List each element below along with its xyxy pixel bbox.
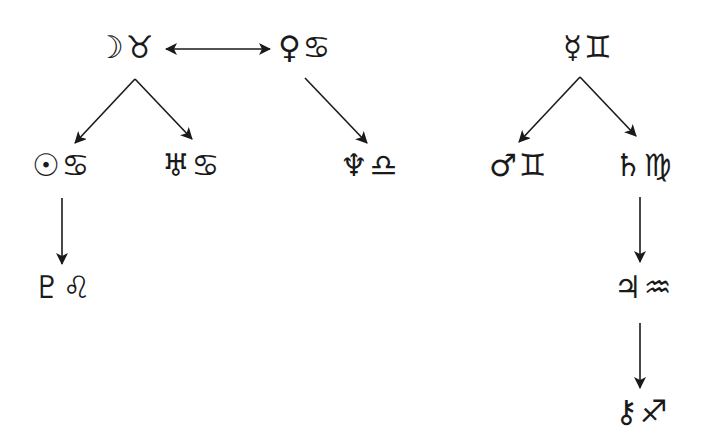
node-mars-gemini: ♂♊	[489, 150, 547, 181]
sagittarius-icon: ♐	[640, 396, 668, 427]
node-sun-cancer: ☉♋	[32, 150, 90, 181]
arrow-mercury-gemini-to-mars-gemini	[519, 77, 580, 142]
node-venus-cancer: ♀♋	[278, 32, 331, 63]
pluto-icon: ♇	[33, 272, 61, 303]
venus-icon: ♀	[278, 32, 301, 63]
gemini-icon: ♊	[584, 32, 612, 63]
node-mercury-gemini: ☿♊	[563, 32, 612, 63]
leo-icon: ♌	[63, 272, 91, 303]
cancer-icon: ♋	[303, 32, 331, 63]
node-neptune-libra: ♆♎	[340, 150, 398, 181]
mercury-icon: ☿	[563, 32, 582, 63]
taurus-icon: ♉	[126, 32, 154, 63]
uranus-icon: ♅	[162, 150, 190, 181]
node-moon-taurus: ☽♉	[96, 32, 154, 63]
arrow-venus-cancer-to-neptune-libra	[305, 78, 367, 143]
sun-icon: ☉	[32, 150, 60, 181]
moon-icon: ☽	[96, 32, 124, 63]
node-uranus-cancer: ♅♋	[162, 150, 220, 181]
aquarius-icon: ♒	[644, 272, 672, 303]
arrow-mercury-gemini-to-saturn-virgo	[580, 77, 636, 136]
gemini-icon: ♊	[519, 150, 547, 181]
arrow-moon-taurus-to-uranus-cancer	[135, 79, 192, 139]
edges-layer	[0, 0, 709, 444]
virgo-icon: ♍	[644, 150, 672, 181]
cancer-icon: ♋	[192, 150, 220, 181]
jupiter-icon: ♃	[614, 272, 642, 303]
node-saturn-virgo: ♄♍	[614, 150, 672, 181]
mars-icon: ♂	[489, 150, 517, 181]
libra-icon: ♎	[370, 150, 398, 181]
saturn-icon: ♄	[614, 150, 642, 181]
neptune-icon: ♆	[340, 150, 368, 181]
chiron-icon: ⚷	[615, 396, 638, 427]
arrow-moon-taurus-to-sun-cancer	[75, 79, 135, 143]
node-chiron-sagittarius: ⚷♐	[615, 396, 668, 427]
dispositor-diagram: ☽♉♀♋☿♊☉♋♅♋♆♎♂♊♄♍♇♌♃♒⚷♐	[0, 0, 709, 444]
node-jupiter-aquarius: ♃♒	[614, 272, 672, 303]
node-pluto-leo: ♇♌	[33, 272, 91, 303]
cancer-icon: ♋	[62, 150, 90, 181]
